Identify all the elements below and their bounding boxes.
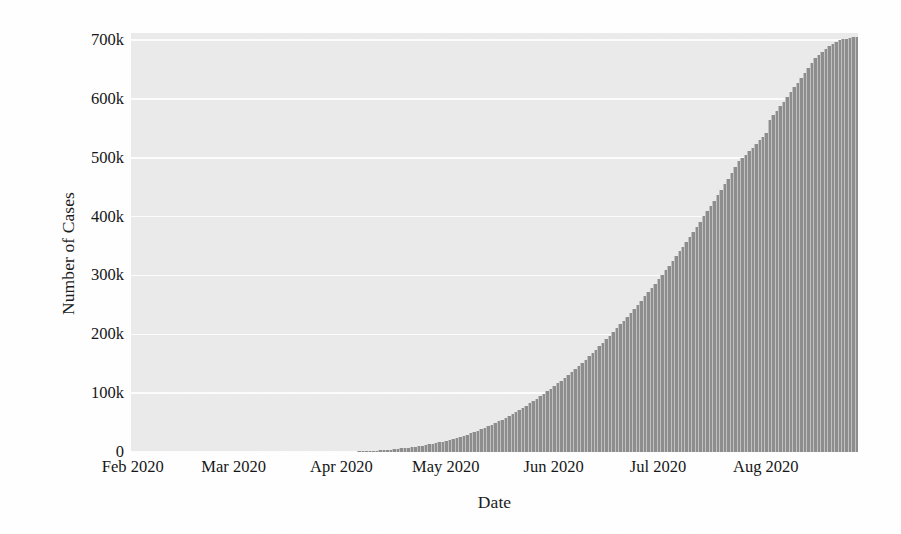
y-tick-label: 100k: [54, 385, 124, 402]
y-tick-label: 400k: [54, 209, 124, 226]
gridline-600k: [131, 98, 858, 100]
x-tick-label: Jul 2020: [630, 457, 686, 477]
bar: [855, 37, 858, 452]
y-tick-label: 600k: [54, 91, 124, 108]
x-tick-label: Aug 2020: [733, 457, 799, 477]
chart-figure: Number of Cases 0100k200k300k400k500k600…: [0, 0, 901, 534]
y-tick-label: 200k: [54, 326, 124, 343]
gridline-700k: [131, 39, 858, 41]
y-tick-label: 500k: [54, 150, 124, 167]
x-axis-title: Date: [131, 492, 858, 513]
y-axis-tick-labels: 0100k200k300k400k500k600k700k: [52, 0, 124, 534]
x-tick-label: Jun 2020: [524, 457, 584, 477]
x-tick-label: Apr 2020: [310, 457, 373, 477]
x-tick-label: Mar 2020: [201, 457, 266, 477]
y-tick-label: 300k: [54, 267, 124, 284]
x-tick-label: Feb 2020: [102, 457, 164, 477]
plot-area: [131, 33, 858, 452]
y-tick-label: 700k: [54, 32, 124, 49]
x-tick-label: May 2020: [412, 457, 479, 477]
